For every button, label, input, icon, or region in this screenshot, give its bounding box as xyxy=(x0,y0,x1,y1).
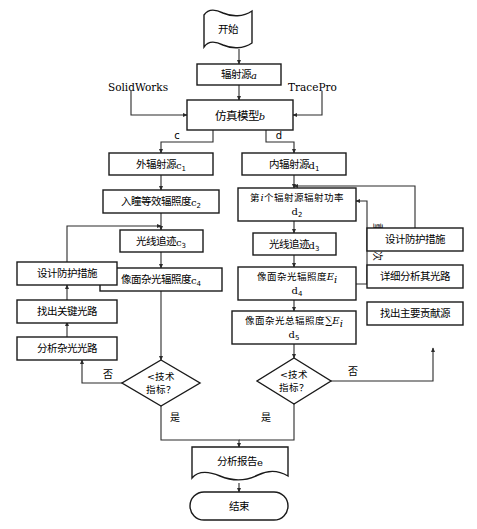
node-total-stray-irradiance-d5-sub: 5 xyxy=(295,334,299,342)
node-image-stray-irradiance-c4-label: 像面杂光辐照度 xyxy=(121,273,192,285)
node-ray-trace-d3-label: 光线追迹 xyxy=(269,238,310,250)
node-ith-source-power-d2-sub: 2 xyxy=(298,211,302,219)
node-sim-model-b-label: 仿真模型 xyxy=(215,109,259,123)
node-left-design-protection-label: 设计防护措施 xyxy=(37,267,98,279)
node-right-find-main-source-label: 找出主要贡献源 xyxy=(380,307,451,319)
svg-text:分析报告e: 分析报告e xyxy=(217,455,263,468)
node-right-design-protection[interactable]: 设计防护措施 xyxy=(367,228,463,251)
node-radiation-source-a[interactable]: 辐射源a xyxy=(197,64,281,85)
svg-text:仿真模型b: 仿真模型b xyxy=(215,109,265,123)
node-total-stray-irradiance-d5-label: 像面杂光总辐照度 xyxy=(245,315,325,326)
node-ith-source-power-d2-post: 个辐射源辐射功率 xyxy=(264,192,344,203)
connector-solidworks-to-model xyxy=(131,91,187,115)
node-decision-left-line1: <技术 xyxy=(147,371,175,382)
node-end[interactable]: 结束 xyxy=(190,492,288,520)
node-decision-right-line2: 指标？ xyxy=(279,382,309,393)
svg-text:辐射源a: 辐射源a xyxy=(221,68,257,81)
node-ray-trace-d3[interactable]: 光线追迹d3 xyxy=(253,233,336,255)
node-external-source-c1-sub: 1 xyxy=(182,165,186,173)
connector-repeat-loop xyxy=(356,201,367,284)
node-decision-left-line2: 指标？ xyxy=(146,384,176,395)
node-analysis-report-e[interactable]: 分析报告e xyxy=(192,447,288,480)
node-external-source-c1-label: 外辐射源 xyxy=(136,158,177,170)
node-right-design-protection-label: 设计防护措施 xyxy=(385,233,446,245)
edge-label-right-yes: 是 xyxy=(261,412,271,423)
connector-right-no-to-findsource xyxy=(327,348,433,381)
node-right-find-main-source[interactable]: 找出主要贡献源 xyxy=(367,302,463,325)
node-total-stray-irradiance-d5[interactable]: 像面杂光总辐照度∑Ei d5 xyxy=(232,311,356,344)
flowchart-canvas: 开始 辐射源a SolidWorks TracePro 仿真模型b c d 外 xyxy=(0,0,477,529)
node-internal-source-d1[interactable]: 内辐射源d1 xyxy=(242,153,346,175)
node-image-stray-irradiance-d4-symbol-sub: i xyxy=(334,274,337,285)
node-left-design-protection[interactable]: 设计防护措施 xyxy=(17,262,117,285)
node-pupil-irradiance-c2[interactable]: 入瞳等效辐照度c2 xyxy=(103,190,219,213)
node-end-label: 结束 xyxy=(229,500,250,512)
node-ray-trace-c3-label: 光线追迹 xyxy=(136,235,177,247)
node-total-stray-irradiance-d5-symbol: ∑E xyxy=(325,315,340,326)
node-image-stray-irradiance-d4-label: 像面杂光辐照度 xyxy=(257,271,327,282)
node-ray-trace-c3-sub: 3 xyxy=(182,242,186,250)
edge-label-left-yes: 是 xyxy=(170,412,180,423)
node-ray-trace-c3[interactable]: 光线追迹c3 xyxy=(120,230,203,252)
node-ray-trace-d3-sub: 3 xyxy=(315,245,319,253)
node-image-stray-irradiance-d4-sub: 4 xyxy=(298,290,303,298)
node-analysis-report-e-tag: e xyxy=(257,457,263,468)
node-left-analyze-stray-path-label: 分析杂光光路 xyxy=(37,342,98,354)
node-start[interactable]: 开始 xyxy=(204,10,252,48)
node-radiation-source-a-tag: a xyxy=(251,70,257,81)
edge-label-branch-c: c xyxy=(174,130,180,141)
connector-tracepro-to-model xyxy=(293,91,322,115)
node-sim-model-b[interactable]: 仿真模型b xyxy=(187,100,293,130)
node-pupil-irradiance-c2-sub: 2 xyxy=(197,202,201,210)
node-image-stray-irradiance-c4-sub: 4 xyxy=(197,280,202,288)
node-ith-source-power-d2[interactable]: 第i个辐射源辐射功率 d2 xyxy=(238,188,356,221)
node-decision-left[interactable]: <技术 指标？ xyxy=(122,360,200,406)
connector-model-to-branch-c xyxy=(161,130,213,153)
node-left-find-key-path[interactable]: 找出关键光路 xyxy=(17,300,117,323)
edge-label-left-no: 否 xyxy=(103,369,113,380)
node-left-find-key-path-label: 找出关键光路 xyxy=(37,305,98,317)
node-sim-model-b-tag: b xyxy=(259,111,265,122)
svg-text:第i个辐射源辐射功率: 第i个辐射源辐射功率 xyxy=(250,192,343,203)
node-right-detail-analyze-path[interactable]: 详细分析其光路 xyxy=(367,265,463,288)
node-right-detail-analyze-path-label: 详细分析其光路 xyxy=(380,270,451,282)
edge-label-right-no: 否 xyxy=(348,366,358,377)
label-tracepro: TracePro xyxy=(288,81,337,93)
node-decision-right[interactable]: <技术 指标？ xyxy=(257,358,331,404)
node-total-stray-irradiance-d5-symbol-sub: i xyxy=(340,318,343,329)
node-internal-source-d1-label: 内辐射源 xyxy=(269,158,310,170)
edge-label-branch-d: d xyxy=(276,130,282,141)
node-decision-right-line1: <技术 xyxy=(280,369,308,380)
node-radiation-source-a-label: 辐射源 xyxy=(221,68,252,80)
label-solidworks: SolidWorks xyxy=(108,81,168,93)
node-image-stray-irradiance-d4[interactable]: 像面杂光辐照度Ei d4 xyxy=(238,267,356,300)
node-pupil-irradiance-c2-label: 入瞳等效辐照度 xyxy=(121,195,192,207)
node-external-source-c1[interactable]: 外辐射源c1 xyxy=(109,153,213,175)
node-ith-source-power-d2-pre: 第 xyxy=(250,192,260,203)
node-internal-source-d1-sub: 1 xyxy=(315,165,319,173)
node-left-analyze-stray-path[interactable]: 分析杂光光路 xyxy=(17,337,117,360)
flowchart-svg: 开始 辐射源a SolidWorks TracePro 仿真模型b c d 外 xyxy=(0,0,477,529)
node-start-label: 开始 xyxy=(218,23,239,35)
node-image-stray-irradiance-c4[interactable]: 像面杂光辐照度c4 xyxy=(100,268,222,291)
node-analysis-report-e-label: 分析报告 xyxy=(217,455,257,467)
